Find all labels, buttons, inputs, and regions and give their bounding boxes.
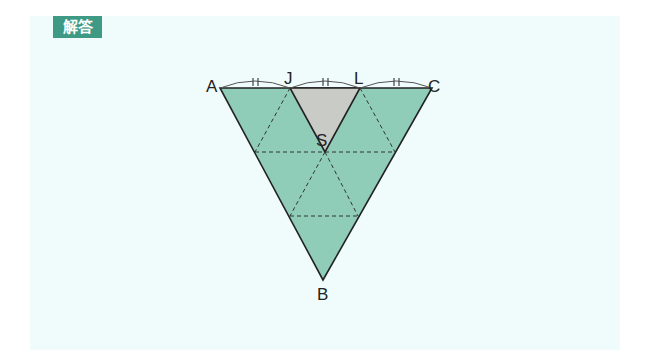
equal-length-arcs xyxy=(220,81,432,88)
label-j: J xyxy=(284,69,293,88)
label-a: A xyxy=(206,77,218,96)
label-c: C xyxy=(428,77,440,96)
label-b: B xyxy=(317,285,328,304)
tick-marks xyxy=(253,78,399,86)
label-s: S xyxy=(316,131,327,150)
label-l: L xyxy=(354,69,363,88)
geometry-diagram: A J L C S B xyxy=(0,0,655,363)
